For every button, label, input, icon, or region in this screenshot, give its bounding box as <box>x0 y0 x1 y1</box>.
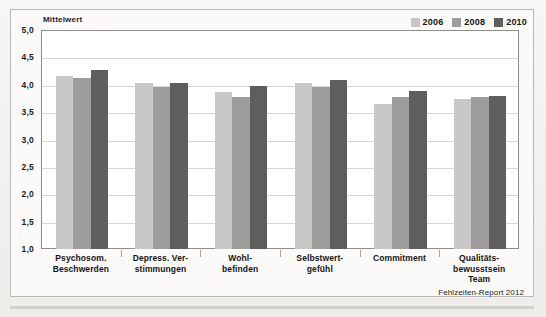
x-label-line: Team <box>439 274 519 285</box>
y-axis-tick: 4,5 <box>22 52 34 62</box>
y-axis-tick: 3,5 <box>22 107 34 117</box>
legend-swatch-icon <box>411 18 420 27</box>
y-axis-tick: 5,0 <box>22 25 34 35</box>
bar-2008[interactable] <box>471 97 489 249</box>
y-axis-tick: 4,0 <box>22 80 34 90</box>
x-label-line: befinden <box>200 264 280 275</box>
x-label-line: Commitment <box>360 253 440 264</box>
x-label-line: Beschwerden <box>41 264 121 275</box>
chart-screenshot: Mittelwert 200620082010 5,04,54,03,53,02… <box>0 0 546 317</box>
y-axis-tick: 3,0 <box>22 135 34 145</box>
y-axis-tick: 2,5 <box>22 162 34 172</box>
y-axis-tick: 1,5 <box>22 217 34 227</box>
bar-2006[interactable] <box>56 76 74 249</box>
y-axis-tick: 1,0 <box>22 244 34 254</box>
legend-label: 2006 <box>423 17 444 27</box>
bar-2010[interactable] <box>91 70 109 249</box>
bar-group <box>122 31 202 249</box>
bar-2006[interactable] <box>135 83 153 249</box>
bar-2008[interactable] <box>153 87 171 249</box>
x-label-line: Depress. Ver- <box>121 253 201 264</box>
category-separator <box>121 250 122 257</box>
bar-2008[interactable] <box>312 87 330 249</box>
bar-2006[interactable] <box>215 92 233 249</box>
x-label-line: Selbstwert- <box>280 253 360 264</box>
bar-group <box>281 31 361 249</box>
bar-2010[interactable] <box>330 80 348 249</box>
bar-2010[interactable] <box>170 83 188 249</box>
y-axis-tick: 2,0 <box>22 189 34 199</box>
bar-2008[interactable] <box>392 97 410 249</box>
category-separator <box>280 250 281 257</box>
bar-2008[interactable] <box>232 97 250 249</box>
x-axis-category-label: Qualitäts-bewusstseinTeam <box>439 253 519 285</box>
x-axis-category-label: Depress. Ver-stimmungen <box>121 253 201 274</box>
x-label-line: stimmungen <box>121 264 201 275</box>
bar-2010[interactable] <box>250 86 268 249</box>
bar-2006[interactable] <box>295 83 313 249</box>
legend-item-2008[interactable]: 2008 <box>452 17 485 27</box>
legend-item-2010[interactable]: 2010 <box>494 17 527 27</box>
bars-layer <box>42 31 518 249</box>
x-axis-category-label: Commitment <box>360 253 440 264</box>
x-label-line: bewusstsein <box>439 264 519 275</box>
y-axis-title: Mittelwert <box>43 15 82 24</box>
x-label-line: gefühl <box>280 264 360 275</box>
category-separator <box>200 250 201 257</box>
x-axis-category-label: Psychosom.Beschwerden <box>41 253 121 274</box>
bar-group <box>201 31 281 249</box>
x-label-line: Qualitäts- <box>439 253 519 264</box>
x-label-line: Wohl- <box>200 253 280 264</box>
legend-swatch-icon <box>494 18 503 27</box>
x-label-line: Psychosom. <box>41 253 121 264</box>
x-axis-category-label: Selbstwert-gefühl <box>280 253 360 274</box>
bar-2008[interactable] <box>73 78 91 249</box>
bar-group <box>361 31 441 249</box>
bar-2010[interactable] <box>489 96 507 249</box>
legend-label: 2008 <box>464 17 485 27</box>
category-separator <box>439 250 440 257</box>
legend-item-2006[interactable]: 2006 <box>411 17 444 27</box>
source-note: Fehlzeiten-Report 2012 <box>438 288 524 297</box>
category-separator <box>360 250 361 257</box>
y-axis-tick-labels: 5,04,54,03,53,02,52,01,51,0 <box>0 0 41 317</box>
legend-label: 2010 <box>506 17 527 27</box>
bar-group <box>42 31 122 249</box>
bar-chart: Mittelwert 200620082010 5,04,54,03,53,02… <box>0 0 546 317</box>
chart-legend: 200620082010 <box>411 17 527 27</box>
bar-group <box>440 31 520 249</box>
bar-2006[interactable] <box>454 99 472 249</box>
x-axis-category-label: Wohl-befinden <box>200 253 280 274</box>
bar-2010[interactable] <box>409 91 427 249</box>
bar-2006[interactable] <box>374 104 392 249</box>
legend-swatch-icon <box>452 18 461 27</box>
